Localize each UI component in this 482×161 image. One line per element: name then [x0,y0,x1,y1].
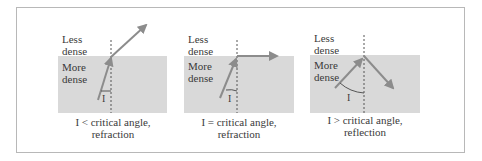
label-line: dense [62,73,87,85]
angle-label: I [228,94,231,104]
caption-line: reflection [300,126,430,138]
more-dense-label: More dense [188,60,213,84]
less-dense-label: Less dense [62,33,87,57]
caption-line: I > critical angle, [300,114,430,126]
angle-label: I [347,93,350,103]
caption-line: refraction [48,128,178,140]
angle-label: I [102,94,105,104]
label-line: Less [62,33,87,45]
panel-caption: I < critical angle, refraction [48,116,178,140]
label-line: Less [188,33,213,45]
more-dense-label: More dense [62,61,87,85]
label-line: dense [188,45,213,57]
label-line: More [62,61,87,73]
panel-caption: I = critical angle, refraction [174,116,304,140]
less-dense-label: Less dense [314,32,339,56]
caption-line: I < critical angle, [48,116,178,128]
label-line: dense [62,45,87,57]
label-line: Less [314,32,339,44]
label-line: dense [314,44,339,56]
label-line: dense [188,72,213,84]
caption-line: I = critical angle, [174,116,304,128]
panel-caption: I > critical angle, reflection [300,114,430,138]
caption-line: refraction [174,128,304,140]
more-dense-label: More dense [314,59,339,83]
less-dense-label: Less dense [188,33,213,57]
label-line: More [314,59,339,71]
refracted-ray [111,25,146,57]
label-line: dense [314,71,339,83]
label-line: More [188,60,213,72]
